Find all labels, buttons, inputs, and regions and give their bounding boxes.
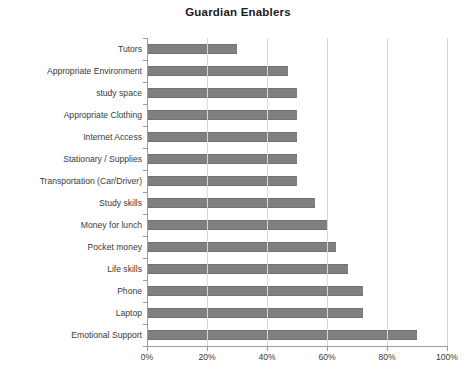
x-axis-tick (327, 347, 328, 351)
bar (147, 242, 336, 252)
category-axis-labels: TutorsAppropriate Environmentstudy space… (0, 38, 142, 346)
category-label: Laptop (0, 308, 142, 319)
gridline-80 (387, 38, 388, 346)
category-label: Appropriate Environment (0, 66, 142, 77)
x-axis-label: 40% (258, 352, 275, 362)
category-label: Life skills (0, 264, 142, 275)
bar (147, 198, 315, 208)
bar (147, 132, 297, 142)
x-axis-tick (447, 347, 448, 351)
bar-chart: Guardian Enablers TutorsAppropriate Envi… (0, 0, 476, 388)
category-label: Emotional Support (0, 330, 142, 341)
x-axis-tick (147, 347, 148, 351)
x-axis-label: 100% (436, 352, 458, 362)
category-label: Study skills (0, 198, 142, 209)
category-label: Internet Access (0, 132, 142, 143)
x-axis-tick (387, 347, 388, 351)
bar (147, 154, 297, 164)
bar (147, 264, 348, 274)
category-label: Stationary / Supplies (0, 154, 142, 165)
bar-row (147, 60, 447, 82)
x-axis-line (147, 346, 448, 347)
bar (147, 88, 297, 98)
bar (147, 330, 417, 340)
bar (147, 44, 237, 54)
gridline-40 (267, 38, 268, 346)
bar (147, 286, 363, 296)
bar-row (147, 192, 447, 214)
gridline-60 (327, 38, 328, 346)
category-label: study space (0, 88, 142, 99)
x-axis-label: 0% (141, 352, 153, 362)
bar-row (147, 38, 447, 60)
category-label: Transportation (Car/Driver) (0, 176, 142, 187)
bar (147, 110, 297, 120)
gridline-20 (207, 38, 208, 346)
bar-row (147, 126, 447, 148)
category-label: Pocket money (0, 242, 142, 253)
gridline-100 (447, 38, 448, 346)
plot-area (147, 38, 447, 346)
x-axis-tick (267, 347, 268, 351)
bar-row (147, 236, 447, 258)
bar-row (147, 280, 447, 302)
category-label: Phone (0, 286, 142, 297)
category-label: Appropriate Clothing (0, 110, 142, 121)
bar-row (147, 148, 447, 170)
bar (147, 176, 297, 186)
category-label: Money for lunch (0, 220, 142, 231)
bar (147, 308, 363, 318)
bar (147, 220, 327, 230)
chart-title: Guardian Enablers (0, 6, 476, 18)
bar-row (147, 104, 447, 126)
bar-row (147, 302, 447, 324)
bar-row (147, 170, 447, 192)
category-label: Tutors (0, 44, 142, 55)
x-axis-label: 60% (318, 352, 335, 362)
x-axis-label: 80% (378, 352, 395, 362)
bar-rows (147, 38, 447, 346)
y-axis-line (147, 38, 148, 347)
bar-row (147, 214, 447, 236)
bar-row (147, 324, 447, 346)
x-axis-label: 20% (198, 352, 215, 362)
bar-row (147, 258, 447, 280)
value-axis-labels: 0%20%40%60%80%100% (0, 352, 476, 368)
x-axis-tick (207, 347, 208, 351)
bar-row (147, 82, 447, 104)
